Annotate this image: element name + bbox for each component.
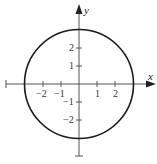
y-tick-label: 1 xyxy=(69,60,74,71)
y-tick-label: −2 xyxy=(63,114,74,125)
y-axis-arrow-icon xyxy=(76,4,83,14)
circle-diagram: x y −2 −1 1 2 2 1 −1 −2 xyxy=(0,0,157,164)
x-tick-label: 2 xyxy=(113,88,118,99)
y-tick-label: −1 xyxy=(63,96,74,107)
y-tick-label: 2 xyxy=(69,42,74,53)
x-tick-label: 1 xyxy=(95,88,100,99)
diagram-canvas: x y −2 −1 1 2 2 1 −1 −2 xyxy=(0,0,157,164)
x-tick-label: −2 xyxy=(36,88,47,99)
y-axis-label: y xyxy=(83,4,89,16)
x-axis-label: x xyxy=(147,70,153,82)
